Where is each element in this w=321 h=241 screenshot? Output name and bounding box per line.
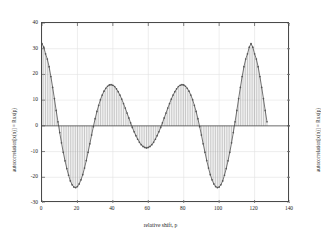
x-tick-label: 80 <box>173 205 193 211</box>
x-tick-label: 120 <box>244 205 264 211</box>
y-tick-label: 10 <box>18 96 38 102</box>
y-tick-label: 30 <box>18 45 38 51</box>
x-tick-label: 20 <box>66 205 86 211</box>
x-tick-label: 60 <box>137 205 157 211</box>
x-tick-label: 0 <box>31 205 51 211</box>
x-axis-label: relative shift, p <box>0 222 321 228</box>
y-tick-label: 20 <box>18 70 38 76</box>
x-tick-label: 100 <box>208 205 228 211</box>
x-tick-label: 140 <box>279 205 299 211</box>
figure-canvas: autocorrelation[x(n)] = Rxx(p) autocorre… <box>0 0 321 241</box>
y-axis-label-right: autocorrelation[x(n)] = Rxx(p) <box>315 108 321 172</box>
y-tick-label: 40 <box>18 19 38 25</box>
y-axis-label-left: autocorrelation[x(n)] = Rxx(p) <box>11 108 17 172</box>
y-tick-label: 0 <box>18 122 38 128</box>
x-tick-label: 40 <box>102 205 122 211</box>
stem-lines <box>42 44 267 188</box>
plot-area <box>41 22 289 202</box>
y-tick-label: -20 <box>18 173 38 179</box>
y-tick-label: -10 <box>18 148 38 154</box>
chart-svg <box>42 23 290 203</box>
